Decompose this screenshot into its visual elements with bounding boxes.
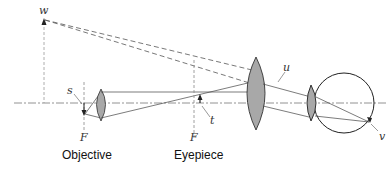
label-u: u bbox=[283, 61, 290, 74]
virtual-ray-upper bbox=[45, 20, 252, 70]
intermediate-image-t-leader bbox=[202, 106, 210, 117]
label-focal-eyepiece: F bbox=[189, 131, 198, 144]
label-t: t bbox=[210, 114, 215, 127]
object-s-leader bbox=[74, 94, 82, 104]
ray-eye-1 bbox=[263, 84, 311, 97]
caption-eyepiece: Eyepiece bbox=[174, 148, 224, 162]
ray-mid-2 bbox=[101, 82, 252, 118]
label-w: w bbox=[39, 4, 49, 17]
microscope-ray-diagram: w s t u v F F Objective Eyepiece bbox=[0, 0, 391, 171]
label-focal-objective: F bbox=[79, 131, 88, 144]
ray-retina-1 bbox=[316, 97, 369, 122]
virtual-ray-lower bbox=[45, 20, 256, 85]
ray-retina-2 bbox=[315, 116, 369, 122]
eyepiece-lens bbox=[247, 57, 265, 130]
objective-lens bbox=[97, 89, 106, 121]
virtual-image-w-arrowhead bbox=[42, 18, 47, 25]
ray-eye-2 bbox=[263, 106, 309, 117]
label-s: s bbox=[67, 84, 73, 97]
label-v: v bbox=[379, 130, 386, 143]
eye-lens bbox=[307, 85, 316, 121]
caption-objective: Objective bbox=[62, 148, 112, 162]
v-leader bbox=[371, 124, 378, 131]
